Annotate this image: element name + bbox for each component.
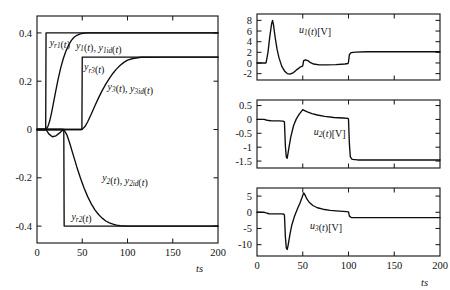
x-tick-label: 150 — [386, 260, 402, 271]
x-tick-label: 100 — [120, 247, 136, 258]
x-tick-label: 50 — [77, 247, 88, 258]
curve-u1-0 — [257, 20, 440, 74]
u1-label: u1(t)[V] — [299, 24, 331, 38]
x-tick-label: 50 — [298, 260, 309, 271]
x-tick-label: 0 — [34, 247, 39, 258]
y-tick-label: 4 — [247, 36, 253, 47]
yr3-label: yr3(t) — [83, 61, 104, 75]
y-tick-label: -0.4 — [15, 221, 32, 232]
y-tick-label: 0 — [247, 114, 252, 125]
x-tick-label: 150 — [165, 247, 181, 258]
y-tick-label: -1 — [243, 142, 252, 153]
control-input-panel: 86420-2u1(t)[V] 0.50-0.5-1-1.5u2(t)[V] 0… — [225, 0, 450, 282]
u3-label: u3(t)[V] — [310, 220, 342, 234]
yr1-label: yr1(t) — [49, 37, 70, 51]
y2-label: y2(t), y2id(t) — [101, 172, 148, 188]
y-tick-label: -1.5 — [235, 156, 252, 167]
y-tick-label: -0.2 — [15, 172, 32, 183]
x-tick-label: 100 — [341, 260, 357, 271]
y-tick-label: -2 — [243, 68, 252, 79]
y-tick-label: 0.4 — [19, 28, 33, 39]
y-tick-label: 0 — [27, 124, 32, 135]
y-tick-label: -10 — [238, 239, 252, 250]
y-tick-label: 0.5 — [239, 100, 252, 111]
curve-u2-0 — [257, 110, 440, 160]
x-tick-label: 200 — [210, 247, 226, 258]
y-tick-label: 6 — [247, 26, 252, 37]
output-response-panel: 0501001502000.40.20-0.2-0.4yr1(t)y1(t), … — [0, 0, 225, 282]
y-tick-label: 0.2 — [19, 76, 32, 87]
y-tick-label: -0.5 — [235, 128, 252, 139]
curve-outputs-6 — [37, 130, 64, 137]
control-input-u1-plot: 86420-2u1(t)[V] — [225, 0, 450, 94]
x-tick-label: 200 — [432, 260, 448, 271]
y-tick-label: 0 — [247, 58, 252, 69]
yr2-label: yr2(t) — [70, 211, 91, 225]
y-tick-label: -5 — [243, 223, 252, 234]
control-input-u2-plot: 0.50-0.5-1-1.5u2(t)[V] — [225, 90, 450, 184]
outputs-xaxis-title: ts — [196, 263, 203, 274]
y-tick-label: 8 — [247, 15, 252, 26]
curve-u3-0 — [257, 193, 440, 250]
x-tick-label: 0 — [254, 260, 259, 271]
y-tick-label: 5 — [247, 191, 252, 202]
y3-label: y3(t), y3id(t) — [107, 81, 154, 97]
u3-xaxis-title: ts — [421, 277, 428, 288]
y-tick-label: 0 — [247, 207, 252, 218]
y-tick-label: 2 — [247, 47, 252, 58]
u2-label: u2(t)[V] — [314, 126, 346, 140]
y1-label: y1(t), y1id(t) — [75, 40, 122, 56]
control-input-u3-plot: 05010015020050-5-10u3(t)[V]ts — [225, 180, 450, 290]
output-response-plot: 0501001502000.40.20-0.2-0.4yr1(t)y1(t), … — [0, 0, 225, 282]
